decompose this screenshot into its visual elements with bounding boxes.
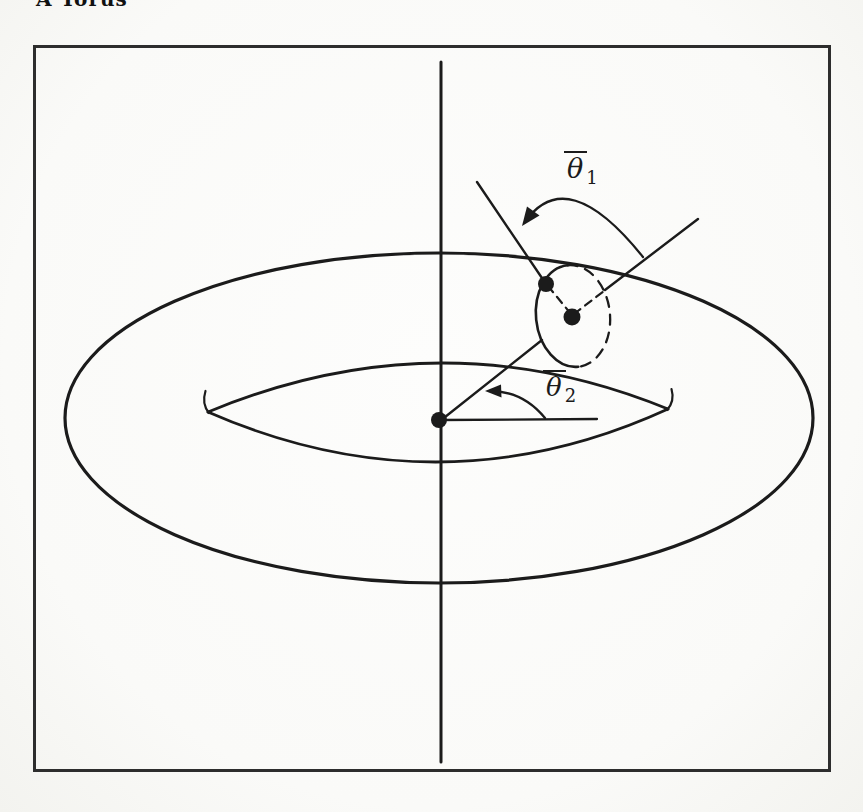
torus-figure <box>0 0 863 812</box>
hole-left-hook <box>204 391 209 413</box>
theta1-angle-arc <box>525 199 643 257</box>
torus-hole-upper-rim <box>208 363 668 412</box>
theta1-label: θ1 <box>564 151 598 182</box>
hole-right-hook <box>667 389 672 410</box>
theta2-reference-line <box>441 419 597 420</box>
theta1-symbol: θ <box>564 151 587 182</box>
tube-point-ray <box>477 182 546 284</box>
theta2-subscript: 2 <box>565 385 576 406</box>
hidden-radius-segment <box>574 291 604 314</box>
theta1-subscript: 1 <box>586 167 597 188</box>
figure-frame <box>35 47 830 771</box>
scanned-page: A Torus <box>0 0 863 812</box>
radius-line-inner-segment <box>440 340 542 421</box>
tube-surface-point-dot <box>538 276 554 292</box>
tube-center-dot <box>564 309 581 326</box>
theta2-symbol: θ <box>543 370 566 400</box>
theta2-arrowhead <box>485 385 502 398</box>
theta2-label: θ2 <box>543 370 576 400</box>
torus-center-dot <box>431 412 447 428</box>
